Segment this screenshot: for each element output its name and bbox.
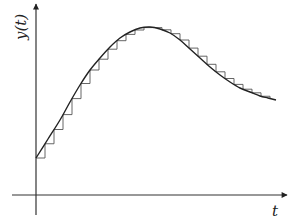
x-axis-label: t	[272, 202, 279, 220]
signal-figure: y(t) t	[0, 0, 290, 223]
y-axis-label: y(t)	[12, 14, 30, 41]
axes	[12, 4, 287, 215]
continuous-signal-curve	[36, 27, 276, 158]
zero-order-hold-staircase	[36, 28, 270, 158]
